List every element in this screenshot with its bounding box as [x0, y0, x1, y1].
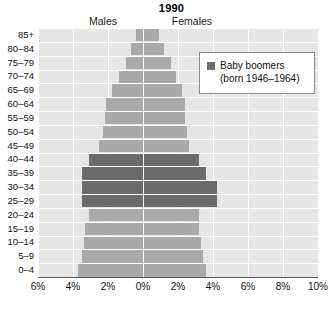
y-axis-tick-label: 80–84 — [0, 43, 34, 54]
gridline-zero — [143, 28, 144, 277]
pyramid-row — [38, 153, 318, 167]
gridline-horizontal — [38, 125, 318, 126]
gridline-horizontal — [38, 166, 318, 167]
pyramid-row — [38, 208, 318, 222]
y-axis-tick-label: 40–44 — [0, 153, 34, 164]
y-axis-tick-label: 25–29 — [0, 195, 34, 206]
legend-label: Baby boomers — [220, 59, 284, 72]
x-axis-tick-label: 4% — [53, 281, 93, 292]
pyramid-row — [38, 222, 318, 236]
bar-males — [89, 209, 143, 221]
pyramid-row — [38, 263, 318, 277]
pyramid-row — [38, 236, 318, 250]
bar-females — [143, 154, 199, 166]
bar-males — [136, 29, 143, 41]
y-axis-tick-label: 20–24 — [0, 209, 34, 220]
x-axis-tick-label: 4% — [193, 281, 233, 292]
males-label: Males — [63, 15, 143, 27]
bar-males — [131, 43, 143, 55]
y-axis-tick-label: 45–49 — [0, 140, 34, 151]
y-axis-tick-label: 60–64 — [0, 98, 34, 109]
x-axis-tick-label: 10% — [298, 281, 331, 292]
bar-females — [143, 250, 203, 262]
pyramid-row — [38, 97, 318, 111]
pyramid-row — [38, 166, 318, 180]
y-axis-tick-label: 30–34 — [0, 181, 34, 192]
y-axis-tick-label: 0–4 — [0, 264, 34, 275]
bar-females — [143, 181, 217, 193]
pyramid-row — [38, 28, 318, 42]
legend-swatch-icon — [207, 62, 215, 70]
bar-males — [89, 154, 143, 166]
bar-females — [143, 223, 199, 235]
bar-males — [78, 264, 143, 276]
gridline-horizontal — [38, 97, 318, 98]
bar-females — [143, 98, 185, 110]
y-axis-tick-label: 55–59 — [0, 112, 34, 123]
gridline-horizontal — [38, 222, 318, 223]
bar-males — [126, 57, 144, 69]
chart-title: 1990 — [0, 2, 331, 14]
bar-males — [105, 112, 144, 124]
bar-females — [143, 112, 185, 124]
bar-males — [103, 126, 143, 138]
bar-females — [143, 71, 176, 83]
x-axis-tick-label: 8% — [263, 281, 303, 292]
bar-females — [143, 209, 199, 221]
bar-females — [143, 126, 187, 138]
bar-males — [82, 167, 143, 179]
x-axis-tick-label: 6% — [228, 281, 268, 292]
bar-females — [143, 167, 206, 179]
bar-males — [82, 195, 143, 207]
legend-item-baby-boomers: Baby boomers — [207, 59, 307, 72]
chart-legend: Baby boomers (born 1946–1964) — [199, 52, 315, 94]
bar-males — [106, 98, 143, 110]
gridline-horizontal — [38, 28, 318, 29]
bar-males — [99, 140, 143, 152]
bar-males — [82, 181, 143, 193]
gridline-horizontal — [38, 180, 318, 181]
legend-sublabel: (born 1946–1964) — [207, 72, 307, 86]
bar-males — [119, 71, 144, 83]
gridline-horizontal — [38, 208, 318, 209]
gridline-vertical — [318, 28, 319, 277]
gridline-horizontal — [38, 139, 318, 140]
bar-females — [143, 29, 159, 41]
pyramid-row — [38, 249, 318, 263]
pyramid-row — [38, 125, 318, 139]
pyramid-row — [38, 180, 318, 194]
gridline-horizontal — [38, 153, 318, 154]
bar-females — [143, 195, 217, 207]
gridline-horizontal — [38, 111, 318, 112]
bar-females — [143, 84, 182, 96]
y-axis-tick-label: 85+ — [0, 29, 34, 40]
y-axis-tick-label: 35–39 — [0, 167, 34, 178]
females-label: Females — [152, 15, 232, 27]
bar-males — [84, 237, 144, 249]
x-axis-tick-label: 0% — [123, 281, 163, 292]
gridline-horizontal — [38, 42, 318, 43]
bar-females — [143, 237, 201, 249]
y-axis-tick-label: 65–69 — [0, 84, 34, 95]
y-axis-tick-label: 75–79 — [0, 57, 34, 68]
bar-females — [143, 57, 171, 69]
y-axis-tick-label: 70–74 — [0, 70, 34, 81]
y-axis-tick-label: 5–9 — [0, 250, 34, 261]
bar-males — [112, 84, 144, 96]
pyramid-row — [38, 111, 318, 125]
bar-females — [143, 43, 164, 55]
bar-males — [85, 223, 143, 235]
gridline-horizontal — [38, 194, 318, 195]
x-axis-tick-label: 6% — [18, 281, 58, 292]
gridline-horizontal — [38, 236, 318, 237]
x-axis-tick-label: 2% — [158, 281, 198, 292]
y-axis-tick-label: 10–14 — [0, 236, 34, 247]
y-axis-tick-label: 50–54 — [0, 126, 34, 137]
gridline-horizontal — [38, 249, 318, 250]
x-axis-tick-label: 2% — [88, 281, 128, 292]
population-pyramid-chart: 1990 Males Females Baby boomers (born 19… — [0, 0, 331, 309]
y-axis-tick-label: 15–19 — [0, 223, 34, 234]
pyramid-row — [38, 194, 318, 208]
bar-females — [143, 264, 206, 276]
pyramid-row — [38, 139, 318, 153]
